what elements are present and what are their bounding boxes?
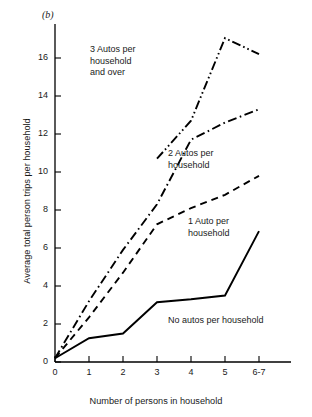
x-tick-marks (55, 356, 259, 362)
x-tick-label-1: 1 (75, 367, 103, 377)
series-label-no-autos: No autos per household (168, 315, 264, 327)
series-one-auto (55, 176, 259, 358)
x-tick-label-3: 3 (143, 367, 171, 377)
x-tick-label-6-7: 6-7 (245, 367, 273, 377)
x-tick-label-4: 4 (177, 367, 205, 377)
y-tick-label-0: 0 (26, 356, 48, 366)
y-axis-title: Average total person trips per household (22, 91, 32, 311)
x-tick-label-2: 2 (109, 367, 137, 377)
series-label-three-autos: 3 Autos per household and over (90, 44, 136, 79)
figure-panel-b: (b) (0, 0, 312, 417)
y-tick-label-16: 16 (26, 52, 48, 62)
series-three-autos (157, 38, 259, 159)
y-tick-label-2: 2 (26, 318, 48, 328)
x-tick-label-0: 0 (41, 367, 69, 377)
series-no-autos (55, 231, 259, 358)
x-axis-title: Number of persons in household (0, 396, 312, 406)
series-label-one-auto: 1 Auto per household (188, 216, 230, 239)
series-label-two-autos: 2 Autos per household (168, 148, 214, 171)
y-tick-marks (55, 58, 61, 362)
x-tick-label-5: 5 (211, 367, 239, 377)
